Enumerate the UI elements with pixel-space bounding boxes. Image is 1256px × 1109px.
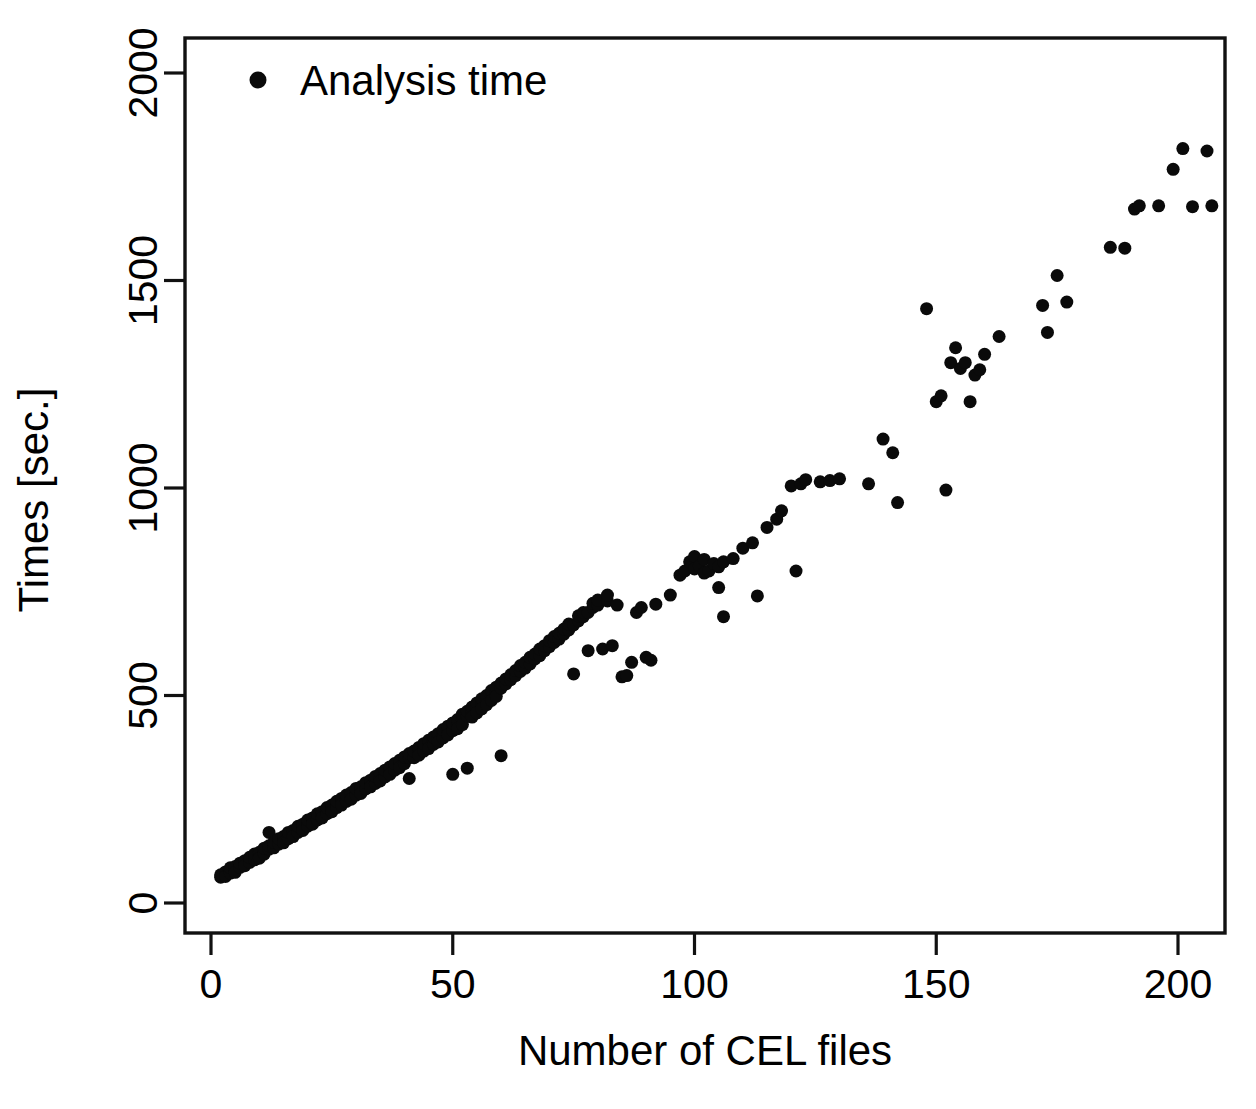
- data-point: [751, 589, 764, 602]
- data-point: [712, 581, 725, 594]
- data-point: [949, 341, 962, 354]
- data-point: [727, 552, 740, 565]
- data-point: [891, 496, 904, 509]
- data-point: [978, 348, 991, 361]
- y-tick-label: 1500: [120, 235, 166, 326]
- data-point: [959, 356, 972, 369]
- scatter-plot-figure: 0500100015002000 050100150200 Analysis t…: [0, 0, 1256, 1109]
- data-point: [964, 395, 977, 408]
- data-point: [799, 473, 812, 486]
- data-point: [1104, 241, 1117, 254]
- data-point: [446, 768, 459, 781]
- x-tick-label: 0: [200, 961, 223, 1007]
- data-point: [746, 536, 759, 549]
- legend: Analysis time: [250, 57, 548, 104]
- data-point: [920, 302, 933, 315]
- data-point: [649, 598, 662, 611]
- y-tick-label: 500: [120, 661, 166, 729]
- y-tick-label: 1000: [120, 442, 166, 533]
- data-point: [1186, 200, 1199, 213]
- x-axis-title: Number of CEL files: [518, 1027, 892, 1074]
- data-point: [717, 610, 730, 623]
- x-axis: 050100150200: [200, 933, 1213, 1007]
- y-axis-title: Times [sec.]: [10, 388, 57, 613]
- data-points-layer: [214, 142, 1218, 884]
- data-point: [862, 477, 875, 490]
- data-point: [403, 772, 416, 785]
- data-point: [1152, 199, 1165, 212]
- data-point: [1051, 269, 1064, 282]
- y-tick-label: 0: [120, 892, 166, 915]
- data-point: [611, 599, 624, 612]
- data-point: [625, 656, 638, 669]
- data-point: [939, 484, 952, 497]
- data-point: [1133, 199, 1146, 212]
- data-point: [1060, 296, 1073, 309]
- data-point: [601, 589, 614, 602]
- data-point: [775, 504, 788, 517]
- data-point: [1118, 242, 1131, 255]
- data-point: [993, 330, 1006, 343]
- data-point: [635, 601, 648, 614]
- data-point: [1041, 326, 1054, 339]
- data-point: [495, 749, 508, 762]
- data-point: [620, 669, 633, 682]
- data-point: [1176, 142, 1189, 155]
- data-point: [1167, 163, 1180, 176]
- data-point: [461, 762, 474, 775]
- x-tick-label: 50: [430, 961, 476, 1007]
- plot-canvas: 0500100015002000 050100150200 Analysis t…: [0, 0, 1256, 1109]
- data-point: [973, 363, 986, 376]
- data-point: [1201, 145, 1214, 158]
- x-tick-label: 200: [1144, 961, 1212, 1007]
- data-point: [1036, 299, 1049, 312]
- data-point: [664, 589, 677, 602]
- data-point: [877, 433, 890, 446]
- x-tick-label: 100: [660, 961, 728, 1007]
- x-tick-label: 150: [902, 961, 970, 1007]
- data-point: [606, 639, 619, 652]
- legend-marker-icon: [250, 72, 267, 89]
- data-point: [644, 654, 657, 667]
- legend-label: Analysis time: [300, 57, 547, 104]
- y-tick-label: 2000: [120, 27, 166, 118]
- y-axis: 0500100015002000: [120, 27, 185, 914]
- data-point: [935, 389, 948, 402]
- data-point: [790, 565, 803, 578]
- data-point: [1205, 199, 1218, 212]
- data-point: [582, 644, 595, 657]
- data-point: [833, 472, 846, 485]
- data-point: [567, 667, 580, 680]
- data-point: [886, 446, 899, 459]
